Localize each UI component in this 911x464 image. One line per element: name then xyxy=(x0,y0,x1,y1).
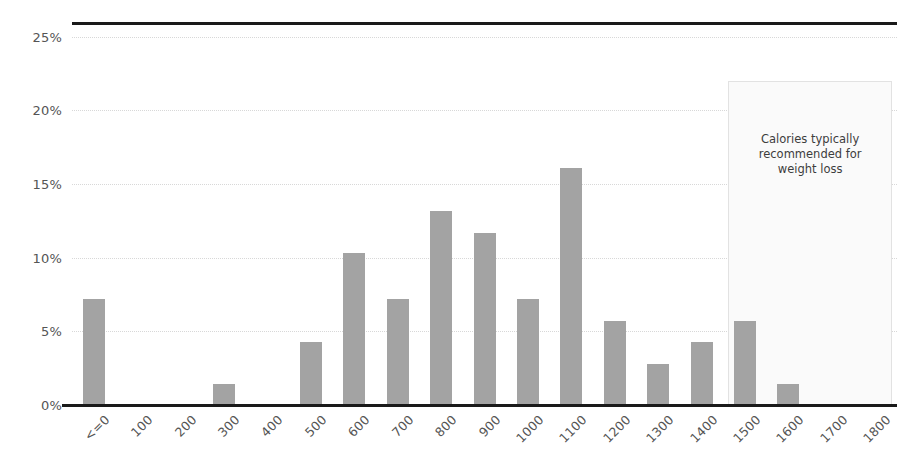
bar-1300[interactable] xyxy=(647,364,669,405)
plot-area: Calories typically recommended for weigh… xyxy=(72,22,897,405)
x-tick-label-200: 200 xyxy=(171,412,199,440)
gridline-25 xyxy=(72,37,897,38)
x-tick-label-1700: 1700 xyxy=(817,412,851,446)
bar-700[interactable] xyxy=(387,299,409,405)
x-tick-label-700: 700 xyxy=(388,412,416,440)
x-tick-label-400: 400 xyxy=(258,412,286,440)
x-tick-label-500: 500 xyxy=(302,412,330,440)
x-tick-label-600: 600 xyxy=(345,412,373,440)
x-tick-label-1000: 1000 xyxy=(513,412,547,446)
y-tick-label: 5% xyxy=(41,324,62,339)
bar-<=0[interactable] xyxy=(83,299,105,405)
y-tick-label: 0% xyxy=(41,398,62,413)
y-tick-label: 20% xyxy=(33,103,63,118)
bar-900[interactable] xyxy=(474,233,496,405)
x-tick-label-800: 800 xyxy=(432,412,460,440)
x-tick-label-1300: 1300 xyxy=(643,412,677,446)
x-tick-label-100: 100 xyxy=(128,412,156,440)
x-tick-label-1600: 1600 xyxy=(773,412,807,446)
bar-1400[interactable] xyxy=(691,342,713,405)
x-tick-label-900: 900 xyxy=(475,412,503,440)
bar-500[interactable] xyxy=(300,342,322,405)
x-axis-baseline xyxy=(62,404,897,407)
bar-800[interactable] xyxy=(430,211,452,405)
bar-1200[interactable] xyxy=(604,321,626,405)
bar-1500[interactable] xyxy=(734,321,756,405)
bar-600[interactable] xyxy=(343,253,365,405)
y-tick-label: 10% xyxy=(33,250,63,265)
x-tick-label-1800: 1800 xyxy=(860,412,894,446)
x-tick-label-1500: 1500 xyxy=(730,412,764,446)
bar-1100[interactable] xyxy=(560,168,582,405)
y-tick-label: 25% xyxy=(33,29,63,44)
x-tick-label-1400: 1400 xyxy=(687,412,721,446)
x-tick-label-1100: 1100 xyxy=(556,412,590,446)
chart-container: Calories typically recommended for weigh… xyxy=(0,0,911,464)
x-tick-label-1200: 1200 xyxy=(600,412,634,446)
x-tick-label-<=0: <=0 xyxy=(81,412,112,443)
bar-1600[interactable] xyxy=(777,384,799,405)
annotation-label-recommended-range: Calories typically recommended for weigh… xyxy=(729,132,891,177)
bar-1000[interactable] xyxy=(517,299,539,405)
bar-300[interactable] xyxy=(213,384,235,405)
y-tick-label: 15% xyxy=(33,177,63,192)
x-tick-label-300: 300 xyxy=(215,412,243,440)
